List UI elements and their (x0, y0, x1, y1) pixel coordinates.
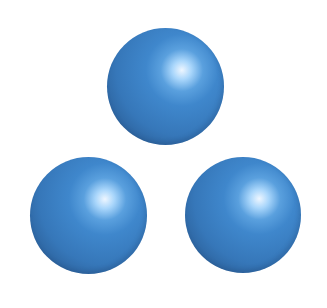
sphere-top (107, 28, 224, 145)
sphere-bottom-right (185, 157, 301, 273)
sphere-canvas (0, 0, 327, 308)
sphere-bottom-left (30, 157, 147, 274)
